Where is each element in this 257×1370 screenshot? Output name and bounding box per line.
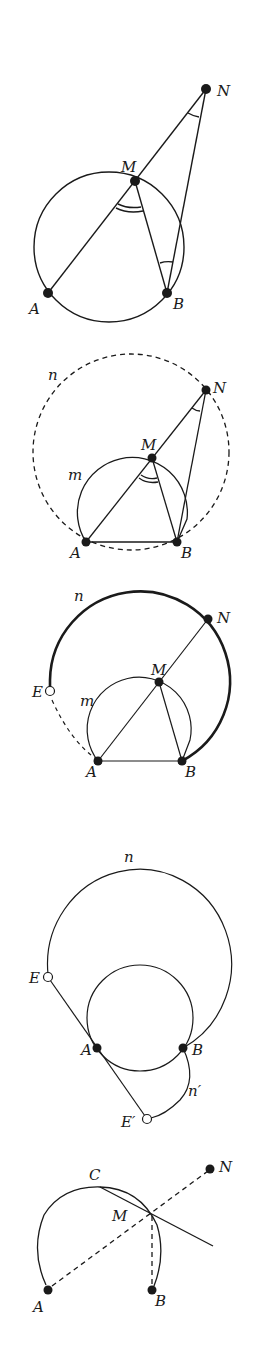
geometry-figure: N M A B n m N M A B xyxy=(0,0,257,1370)
label-b: B xyxy=(191,1041,203,1059)
point-e-open xyxy=(46,687,55,696)
circle-n-dashed xyxy=(33,354,229,550)
label-a: A xyxy=(79,1041,92,1059)
label-e-prime: E′ xyxy=(120,1113,136,1131)
label-a: A xyxy=(84,763,97,781)
angle-mark-n xyxy=(192,408,200,411)
label-c: C xyxy=(89,1166,101,1184)
point-n xyxy=(204,615,213,624)
circle xyxy=(34,172,184,322)
point-n xyxy=(202,386,211,395)
angle-mark-m-inner xyxy=(118,204,141,208)
label-n-circle: n xyxy=(48,366,58,384)
label-a: A xyxy=(68,544,81,562)
angle-mark-n xyxy=(188,113,199,117)
label-n: N xyxy=(216,82,231,100)
point-n xyxy=(201,84,211,94)
segment-m-b xyxy=(135,181,167,293)
angle-mark-b xyxy=(160,262,173,263)
label-n: N xyxy=(216,609,231,627)
arc-n-thick xyxy=(50,591,230,761)
arc xyxy=(37,1187,160,1286)
point-n xyxy=(206,1165,215,1174)
label-n-arc: n xyxy=(74,587,84,605)
point-b xyxy=(162,288,172,298)
point-a xyxy=(82,538,91,547)
arc-m xyxy=(87,677,191,761)
arc-n-prime xyxy=(151,1048,190,1118)
angle-mark-m-inner xyxy=(141,475,157,479)
label-e: E xyxy=(31,683,43,701)
point-a xyxy=(43,288,53,298)
label-n: N xyxy=(212,379,227,397)
label-m: M xyxy=(140,436,157,454)
line-a-n xyxy=(98,619,208,761)
point-m xyxy=(130,176,140,186)
panel-3 xyxy=(46,591,230,765)
label-a: A xyxy=(27,300,40,318)
panel-2 xyxy=(33,354,229,550)
point-m xyxy=(148,454,157,463)
dashed-line-a-n xyxy=(52,1171,208,1286)
label-m: M xyxy=(150,661,167,679)
label-b: B xyxy=(184,763,196,781)
point-a xyxy=(93,1044,102,1053)
label-m: M xyxy=(111,1207,128,1225)
label-m-arc: m xyxy=(80,692,94,710)
label-a: A xyxy=(31,1298,44,1316)
segment-m-b xyxy=(159,682,182,761)
panel-5 xyxy=(37,1165,214,1295)
panel-4 xyxy=(44,869,232,1123)
label-m: M xyxy=(120,158,137,176)
label-n-prime: n′ xyxy=(188,1082,202,1100)
point-a xyxy=(44,1286,53,1295)
panel-1 xyxy=(34,84,211,322)
arc-m xyxy=(77,457,187,542)
label-n: N xyxy=(218,1158,233,1176)
label-m-arc: m xyxy=(68,466,82,484)
label-n-arc: n xyxy=(124,848,134,866)
label-e: E xyxy=(28,969,40,987)
label-b: B xyxy=(172,295,184,313)
point-e-open xyxy=(44,973,53,982)
label-b: B xyxy=(180,544,192,562)
label-b: B xyxy=(154,1292,166,1310)
angle-mark-m-outer xyxy=(116,208,143,212)
segment-m-b xyxy=(152,458,177,542)
arc-n xyxy=(48,869,232,1048)
point-b xyxy=(179,1044,188,1053)
point-e-prime-open xyxy=(143,1115,152,1124)
